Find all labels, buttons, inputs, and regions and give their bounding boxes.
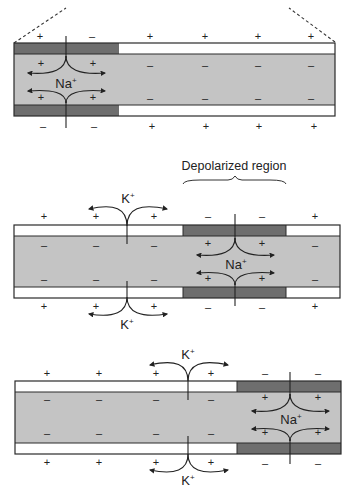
k-ion-label-bottom: K+ (181, 473, 195, 488)
svg-text:+: + (93, 210, 99, 222)
svg-text:–: – (147, 92, 154, 104)
svg-text:+: + (44, 456, 50, 468)
svg-text:–: – (147, 59, 154, 71)
svg-text:+: + (262, 391, 268, 403)
panel-3: K+ K+ Na+ ++++–– ––––++ ––––++ ++++–– (15, 347, 341, 488)
svg-text:–: – (151, 273, 158, 285)
svg-text:–: – (315, 367, 322, 379)
svg-text:–: – (93, 239, 100, 251)
svg-text:–: – (262, 367, 269, 379)
brace-icon (183, 176, 286, 184)
svg-text:–: – (259, 210, 266, 222)
panel-1: Na+ +–++++ ++–––– ++–––– ––++++ (14, 8, 335, 132)
membrane-bottom-resting (14, 287, 340, 298)
svg-text:+: + (315, 426, 321, 438)
svg-text:–: – (262, 457, 269, 469)
svg-text:+: + (262, 426, 268, 438)
svg-text:–: – (151, 239, 158, 251)
svg-text:–: – (255, 92, 262, 104)
svg-text:+: + (90, 57, 96, 69)
svg-text:+: + (96, 456, 102, 468)
membrane-bottom-depolarized (237, 443, 341, 454)
svg-text:+: + (203, 120, 209, 132)
svg-text:+: + (41, 300, 47, 312)
svg-text:+: + (312, 210, 318, 222)
svg-text:+: + (205, 272, 211, 284)
svg-text:+: + (149, 120, 155, 132)
svg-text:–: – (255, 59, 262, 71)
svg-text:+: + (153, 456, 159, 468)
svg-text:+: + (259, 237, 265, 249)
svg-text:+: + (151, 210, 157, 222)
axoplasm (14, 236, 340, 287)
svg-text:+: + (311, 120, 317, 132)
svg-text:+: + (256, 120, 262, 132)
membrane-top-depolarized (237, 381, 341, 392)
svg-text:+: + (315, 391, 321, 403)
svg-text:–: – (205, 301, 212, 313)
svg-text:–: – (315, 457, 322, 469)
svg-text:–: – (153, 427, 160, 439)
svg-text:–: – (93, 273, 100, 285)
svg-text:+: + (153, 367, 159, 379)
svg-text:–: – (41, 239, 48, 251)
k-ion-label-bottom: K+ (120, 317, 134, 332)
svg-text:+: + (41, 210, 47, 222)
svg-text:+: + (208, 456, 214, 468)
svg-text:+: + (38, 57, 44, 69)
svg-text:+: + (208, 367, 214, 379)
depolarized-region-label: Depolarized region (182, 159, 287, 173)
svg-text:–: – (208, 427, 215, 439)
svg-text:+: + (202, 30, 208, 42)
svg-text:–: – (91, 120, 98, 132)
svg-text:–: – (96, 427, 103, 439)
svg-text:–: – (153, 393, 160, 405)
svg-text:–: – (202, 59, 209, 71)
panel-2: Depolarized region K+ K+ (14, 159, 340, 332)
svg-text:–: – (44, 393, 51, 405)
svg-text:+: + (90, 91, 96, 103)
svg-text:–: – (96, 393, 103, 405)
svg-text:+: + (96, 367, 102, 379)
svg-text:+: + (147, 30, 153, 42)
svg-text:–: – (312, 273, 319, 285)
svg-text:+: + (312, 300, 318, 312)
svg-text:–: – (205, 210, 212, 222)
svg-text:+: + (37, 30, 43, 42)
svg-text:–: – (308, 92, 315, 104)
k-ion-label-top: K+ (121, 191, 135, 206)
svg-text:+: + (308, 30, 314, 42)
svg-text:+: + (44, 367, 50, 379)
svg-text:–: – (44, 427, 51, 439)
svg-text:+: + (151, 300, 157, 312)
svg-text:–: – (208, 393, 215, 405)
svg-text:+: + (255, 30, 261, 42)
svg-text:+: + (205, 237, 211, 249)
svg-text:–: – (202, 92, 209, 104)
svg-text:+: + (93, 300, 99, 312)
svg-text:–: – (312, 239, 319, 251)
svg-text:–: – (308, 59, 315, 71)
action-potential-propagation-diagram: Na+ +–++++ ++–––– ++–––– ––++++ Depolari… (0, 0, 350, 493)
svg-text:+: + (38, 91, 44, 103)
membrane-top-resting (14, 225, 340, 236)
k-ion-label-top: K+ (181, 347, 195, 362)
svg-text:–: – (40, 120, 47, 132)
svg-text:–: – (259, 301, 266, 313)
svg-text:–: – (41, 273, 48, 285)
svg-text:+: + (259, 272, 265, 284)
svg-text:–: – (89, 30, 96, 42)
